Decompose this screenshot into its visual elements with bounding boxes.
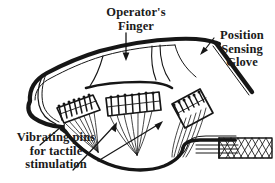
tactile-glove-figure: Operator's Finger Position Sensing Glove… xyxy=(0,0,275,183)
label-operator-finger: Operator's Finger xyxy=(84,6,188,33)
pin-array-middle xyxy=(106,92,161,156)
palm-contour xyxy=(86,82,172,88)
finger-top-outline xyxy=(30,39,219,101)
label-vibrating-pins: Vibrating pins for tactile stimulation xyxy=(4,131,108,172)
label-position-sensing-glove: Position Sensing Glove xyxy=(209,29,275,70)
pin-array-right xyxy=(172,89,213,157)
